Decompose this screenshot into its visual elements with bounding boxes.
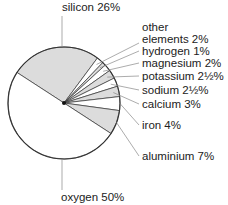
leader-iron — [120, 104, 139, 125]
leader-hydrogen — [100, 51, 139, 68]
pie-chart: silicon 26%otherelements 2%hydrogen 1%ma… — [0, 0, 228, 205]
label-magnesium: magnesium 2% — [142, 57, 221, 69]
label-aluminium: aluminium 7% — [142, 150, 214, 162]
label-calcium: calcium 3% — [142, 98, 201, 110]
label-oxygen: oxygen 50% — [61, 191, 124, 203]
label-silicon: silicon 26% — [62, 1, 120, 13]
leader-aluminium — [116, 123, 139, 156]
pie-center — [62, 101, 66, 105]
label-potassium: potassium 2½% — [142, 70, 224, 82]
label-hydrogen: hydrogen 1% — [142, 45, 210, 57]
label-sodium: sodium 2½% — [142, 84, 208, 96]
label-iron: iron 4% — [142, 119, 181, 131]
label-other-elements: otherelements 2% — [142, 21, 208, 45]
